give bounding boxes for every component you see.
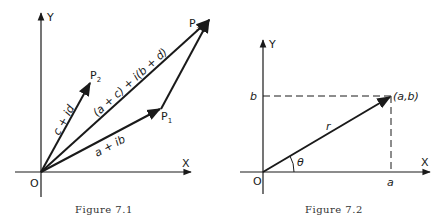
angle-arc — [290, 156, 294, 172]
angle-theta-label: θ — [297, 156, 304, 169]
vector-op1-label: a + ib — [92, 133, 127, 160]
fig2-x-label: X — [421, 156, 429, 169]
vector-p1p3 — [161, 20, 209, 109]
fig2-origin-label: O — [253, 175, 262, 188]
point-p3-label: P3 — [189, 17, 200, 32]
figure-7-1-caption: Figure 7.1 — [75, 204, 133, 215]
point-p1-label: P1 — [161, 110, 172, 125]
x-tick-a-label: a — [387, 176, 394, 189]
figures-canvas: Y X O P2 P1 P3 c + id a + ib (a + c) + i… — [0, 0, 438, 222]
vector-op2-label: c + id — [50, 102, 78, 137]
vector-op3 — [41, 20, 209, 172]
figure-7-1: Y X O P2 P1 P3 c + id a + ib (a + c) + i… — [15, 11, 209, 215]
fig2-y-label: Y — [268, 38, 276, 51]
fig1-origin-label: O — [30, 177, 39, 190]
fig1-x-label: X — [182, 157, 190, 170]
figure-7-2-caption: Figure 7.2 — [305, 204, 363, 215]
figure-7-2: Y X O b a (a,b) r θ Figure 7.2 — [240, 38, 430, 215]
point-p2-label: P2 — [90, 69, 101, 84]
fig1-y-label: Y — [46, 11, 54, 24]
vector-op3-label: (a + c) + i(b + d) — [90, 46, 170, 120]
vector-r — [263, 97, 390, 172]
y-tick-b-label: b — [250, 90, 257, 103]
point-ab-label: (a,b) — [393, 90, 419, 103]
